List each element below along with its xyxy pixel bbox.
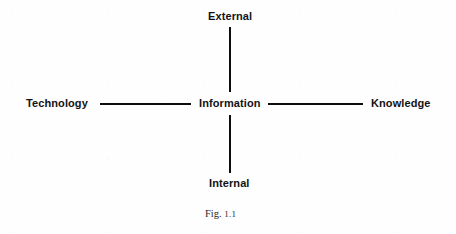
- connector-center-to-bottom: [229, 115, 231, 173]
- figure-caption-number: 1.1: [224, 209, 236, 219]
- connector-center-to-top: [229, 27, 231, 92]
- figure-caption: Fig. 1.1: [205, 209, 236, 220]
- node-label-knowledge: Knowledge: [371, 98, 431, 109]
- node-label-information: Information: [199, 98, 261, 109]
- connector-center-to-left: [100, 103, 191, 105]
- node-label-external: External: [208, 11, 252, 22]
- connector-center-to-right: [268, 103, 363, 105]
- node-label-technology: Technology: [26, 98, 88, 109]
- node-label-internal: Internal: [209, 178, 250, 189]
- figure-caption-prefix: Fig.: [205, 208, 222, 219]
- figure-page: External Technology Information Knowledg…: [0, 0, 456, 234]
- scan-noise-overlay: [0, 0, 456, 234]
